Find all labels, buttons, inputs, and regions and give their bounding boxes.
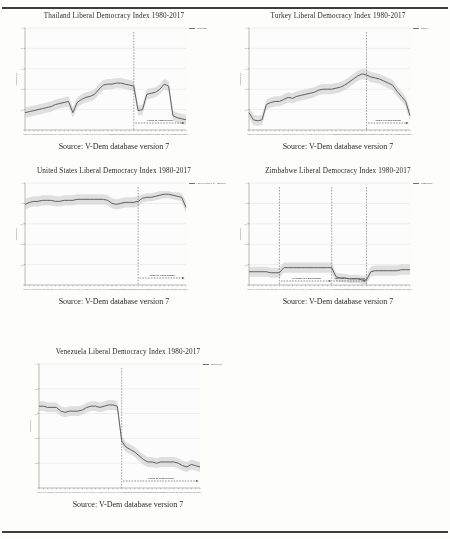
svg-text:Democracy: Democracy <box>15 227 18 240</box>
svg-text:.6: .6 <box>20 222 23 226</box>
figure-united-states: United States Liberal Democracy Index 19… <box>8 167 220 306</box>
svg-text:.6: .6 <box>244 222 247 226</box>
svg-text:1: 1 <box>245 26 247 30</box>
chart-canvas-venezuela: .2.4.6.81Democracy1980198119821983198419… <box>22 359 234 499</box>
svg-text:.2: .2 <box>34 461 37 465</box>
figure-venezuela: Venezuela Liberal Democracy Index 1980-2… <box>22 348 234 509</box>
svg-text:2017: 2017 <box>408 288 413 290</box>
legend-label: United States of America <box>197 182 226 185</box>
plot-turkey: .2.4.6.81Democracy1980198119821983198419… <box>232 23 444 141</box>
plot-thailand: .2.4.6.81Democracy1980198119821983198419… <box>8 23 220 141</box>
svg-text:.8: .8 <box>244 201 247 205</box>
svg-text:.4: .4 <box>20 242 23 246</box>
svg-text:2017: 2017 <box>198 491 203 493</box>
chart-title-zimbabwe: Zimbabwe Liberal Democracy Index 1980-20… <box>232 167 444 175</box>
svg-text:.2: .2 <box>20 108 23 112</box>
svg-text:.8: .8 <box>20 201 23 205</box>
svg-text:2nd Phase of Polarization: 2nd Phase of Polarization <box>334 277 365 280</box>
svg-text:1: 1 <box>21 26 23 30</box>
chart-title-thailand: Thailand Liberal Democracy Index 1980-20… <box>8 12 220 20</box>
svg-text:.4: .4 <box>244 87 247 91</box>
svg-text:Phase of Polarization: Phase of Polarization <box>376 119 402 122</box>
legend-label: Zimbabwe <box>421 182 433 185</box>
svg-text:1: 1 <box>21 181 23 185</box>
svg-text:Democracy: Democracy <box>239 227 242 240</box>
chart-legend-turkey: Turkey <box>413 27 429 30</box>
chart-legend-venezuela: Venezuela <box>203 363 222 366</box>
legend-swatch-icon <box>189 28 195 30</box>
svg-text:1st Phase of Polarization: 1st Phase of Polarization <box>291 277 321 280</box>
chart-source-turkey: Source: V-Dem database version 7 <box>232 142 444 151</box>
legend-swatch-icon <box>189 183 195 185</box>
legend-swatch-icon <box>413 183 419 185</box>
plot-venezuela: .2.4.6.81Democracy1980198119821983198419… <box>22 359 234 499</box>
chart-canvas-turkey: .2.4.6.81Democracy1980198119821983198419… <box>232 23 444 141</box>
svg-text:Democracy: Democracy <box>29 419 32 432</box>
svg-text:Phase of Polarization: Phase of Polarization <box>147 119 173 122</box>
chart-legend-thailand: Thailand <box>189 27 207 30</box>
svg-text:.8: .8 <box>34 387 37 391</box>
chart-canvas-thailand: .2.4.6.81Democracy1980198119821983198419… <box>8 23 220 141</box>
chart-source-zimbabwe: Source: V-Dem database version 7 <box>232 297 444 306</box>
svg-text:1: 1 <box>245 181 247 185</box>
svg-text:.4: .4 <box>34 436 37 440</box>
chart-source-thailand: Source: V-Dem database version 7 <box>8 142 220 151</box>
chart-legend-united-states: United States of America <box>189 182 226 185</box>
svg-text:.8: .8 <box>20 46 23 50</box>
svg-text:.4: .4 <box>244 242 247 246</box>
svg-text:.6: .6 <box>244 67 247 71</box>
legend-label: Thailand <box>197 27 207 30</box>
svg-text:2017: 2017 <box>184 133 189 135</box>
svg-text:Phase of Polarization: Phase of Polarization <box>148 477 174 480</box>
plot-united-states: .2.4.6.81Democracy1980198119821983198419… <box>8 178 220 296</box>
legend-label: Turkey <box>421 27 429 30</box>
svg-text:.6: .6 <box>34 412 37 416</box>
figure-thailand: Thailand Liberal Democracy Index 1980-20… <box>8 12 220 151</box>
svg-text:.4: .4 <box>20 87 23 91</box>
svg-text:Democracy: Democracy <box>239 72 242 85</box>
page-rule-top <box>2 7 448 9</box>
svg-text:.2: .2 <box>244 263 247 267</box>
figure-turkey: Turkey Liberal Democracy Index 1980-2017… <box>232 12 444 151</box>
svg-text:1: 1 <box>35 362 37 366</box>
figure-zimbabwe: Zimbabwe Liberal Democracy Index 1980-20… <box>232 167 444 306</box>
svg-text:Democracy: Democracy <box>15 72 18 85</box>
legend-swatch-icon <box>413 28 419 30</box>
svg-text:2017: 2017 <box>184 288 189 290</box>
legend-label: Venezuela <box>211 363 223 366</box>
chart-source-united-states: Source: V-Dem database version 7 <box>8 297 220 306</box>
page-rule-bottom <box>2 531 448 533</box>
chart-canvas-zimbabwe: .2.4.6.81Democracy1980198119821983198419… <box>232 178 444 296</box>
svg-text:.2: .2 <box>244 108 247 112</box>
legend-swatch-icon <box>203 364 209 366</box>
chart-legend-zimbabwe: Zimbabwe <box>413 182 433 185</box>
svg-text:Phase of Polarization: Phase of Polarization <box>149 274 175 277</box>
chart-title-united-states: United States Liberal Democracy Index 19… <box>8 167 220 175</box>
chart-title-turkey: Turkey Liberal Democracy Index 1980-2017 <box>232 12 444 20</box>
chart-source-venezuela: Source: V-Dem database version 7 <box>22 500 234 509</box>
chart-canvas-united-states: .2.4.6.81Democracy1980198119821983198419… <box>8 178 220 296</box>
chart-title-venezuela: Venezuela Liberal Democracy Index 1980-2… <box>22 348 234 356</box>
svg-text:2017: 2017 <box>408 133 413 135</box>
svg-text:.6: .6 <box>20 67 23 71</box>
svg-text:.2: .2 <box>20 263 23 267</box>
svg-text:.8: .8 <box>244 46 247 50</box>
plot-zimbabwe: .2.4.6.81Democracy1980198119821983198419… <box>232 178 444 296</box>
